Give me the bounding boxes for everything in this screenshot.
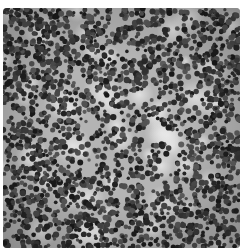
micrograph-image	[3, 8, 240, 248]
micrograph-texture	[3, 8, 240, 248]
figure-caption-clipped	[0, 0, 246, 2]
